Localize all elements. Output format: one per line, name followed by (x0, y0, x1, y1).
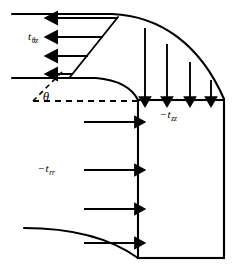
figure-root: tθz −tzz −trr θ (0, 0, 233, 276)
label-angle-theta: θ (43, 89, 50, 104)
stress-diagram: tθz −tzz −trr θ (0, 0, 233, 276)
